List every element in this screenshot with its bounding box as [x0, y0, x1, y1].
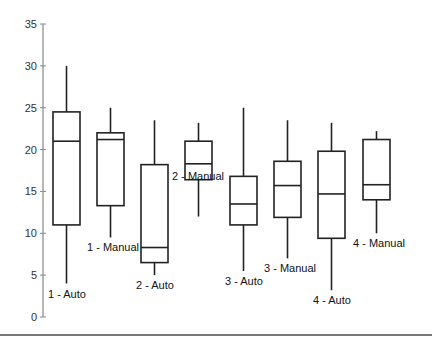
y-tick-label: 35	[25, 18, 37, 30]
y-tick-label: 20	[25, 144, 37, 156]
box-plot-chart: 051015202530351 - Auto1 - Manual2 - Auto…	[0, 0, 432, 340]
category-label: 4 - Manual	[353, 237, 405, 249]
box-iqr	[318, 151, 345, 238]
box-iqr	[53, 112, 80, 225]
box-iqr	[274, 161, 301, 217]
category-label: 3 - Manual	[264, 262, 316, 274]
bottom-divider	[0, 334, 432, 336]
y-tick-label: 10	[25, 227, 37, 239]
y-tick-label: 25	[25, 102, 37, 114]
category-label: 3 - Auto	[225, 275, 263, 287]
category-label: 4 - Auto	[313, 294, 351, 306]
y-tick-label: 0	[31, 311, 37, 323]
box-iqr	[230, 176, 257, 225]
y-tick-label: 15	[25, 185, 37, 197]
box-iqr	[363, 140, 390, 200]
category-label: 2 - Manual	[172, 170, 224, 182]
y-tick-label: 30	[25, 60, 37, 72]
y-tick-label: 5	[31, 269, 37, 281]
category-label: 2 - Auto	[136, 279, 174, 291]
box-iqr	[97, 133, 124, 206]
category-label: 1 - Auto	[48, 288, 86, 300]
category-label: 1 - Manual	[87, 241, 139, 253]
